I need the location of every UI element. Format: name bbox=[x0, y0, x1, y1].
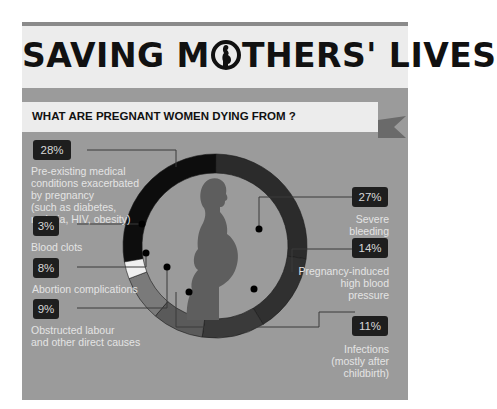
label-blood-clots: Blood clots bbox=[31, 241, 82, 253]
label-line: Severe bbox=[318, 213, 389, 225]
label-infections: Infections (mostly after childbirth) bbox=[298, 343, 389, 379]
label-obstructed: Obstructed labour and other direct cause… bbox=[31, 324, 140, 348]
label-line: childbirth) bbox=[298, 367, 389, 379]
badge-abortion: 8% bbox=[33, 258, 59, 278]
badge-blood-clots: 3% bbox=[33, 216, 59, 236]
label-line: (such as diabetes, bbox=[31, 201, 139, 213]
label-line: (mostly after bbox=[298, 355, 389, 367]
badge-obstructed: 9% bbox=[33, 299, 59, 319]
label-hypertension: Pregnancy-induced high blood pressure bbox=[288, 265, 389, 301]
label-line: pressure bbox=[288, 289, 389, 301]
label-line: Obstructed labour bbox=[31, 324, 140, 336]
label-line: high blood bbox=[288, 277, 389, 289]
badge-infections: 11% bbox=[352, 316, 388, 336]
label-line: and other direct causes bbox=[31, 336, 140, 348]
label-bleeding: Severe bleeding bbox=[318, 213, 389, 237]
infographic-panel: SAVING MTHERS' LIVES WHAT ARE PREGNANT W… bbox=[22, 22, 408, 400]
label-line: Infections bbox=[298, 343, 389, 355]
label-abortion: Abortion complications bbox=[32, 283, 138, 295]
label-line: Pregnancy-induced bbox=[288, 265, 389, 277]
badge-bleeding: 27% bbox=[352, 187, 388, 207]
label-line: conditions exacerbated bbox=[31, 177, 139, 189]
pregnant-woman-silhouette bbox=[187, 178, 238, 320]
label-line: bleeding bbox=[318, 225, 389, 237]
badge-pre-existing: 28% bbox=[33, 140, 71, 160]
label-line: by pregnancy bbox=[31, 189, 139, 201]
badge-hypertension: 14% bbox=[352, 238, 388, 258]
label-line: Pre-existing medical bbox=[31, 165, 139, 177]
